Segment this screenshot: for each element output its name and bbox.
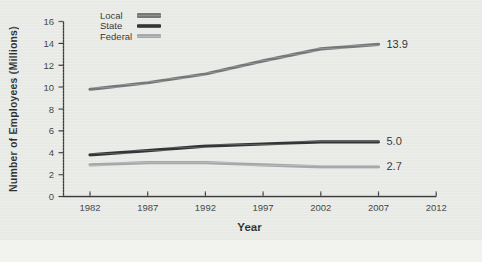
x-tick-label: 1992 (195, 202, 216, 213)
series-line-local (90, 44, 379, 89)
x-tick-label: 2002 (310, 202, 331, 213)
series-line-state (90, 142, 379, 155)
end-label-federal: 2.7 (387, 160, 402, 172)
legend: Local State Federal (100, 11, 161, 41)
x-tick-label: 2012 (426, 202, 447, 213)
axis-lines (64, 22, 437, 197)
y-tick-label: 2 (49, 169, 54, 180)
x-axis-title: Year (63, 221, 436, 233)
series-line-federal (90, 163, 379, 167)
legend-swatch-local (137, 13, 161, 18)
y-tick-label: 0 (49, 191, 54, 202)
y-tick-label: 6 (49, 125, 54, 136)
legend-swatch-state (137, 24, 161, 29)
x-tick-label: 1987 (137, 202, 158, 213)
legend-swatch-federal (137, 34, 161, 39)
chart-panel: 0246810121416198219871992199720022007201… (0, 0, 482, 240)
y-axis-title: Number of Employees (Millions) (6, 21, 20, 197)
y-tick-label: 8 (49, 104, 54, 115)
y-tick-label: 12 (43, 60, 54, 71)
legend-label-federal: Federal (100, 32, 137, 41)
x-tick-label: 2007 (368, 202, 389, 213)
line-chart: 0246810121416198219871992199720022007201… (0, 0, 482, 240)
y-tick-label: 10 (43, 82, 54, 93)
end-label-local: 13.9 (387, 38, 408, 50)
end-label-state: 5.0 (387, 135, 402, 147)
y-tick-label: 16 (43, 16, 54, 27)
x-tick-label: 1982 (79, 202, 100, 213)
y-tick-label: 14 (43, 38, 54, 49)
x-tick-label: 1997 (253, 202, 274, 213)
legend-label-state: State (100, 21, 137, 30)
legend-label-local: Local (100, 11, 137, 20)
y-tick-label: 4 (49, 147, 54, 158)
